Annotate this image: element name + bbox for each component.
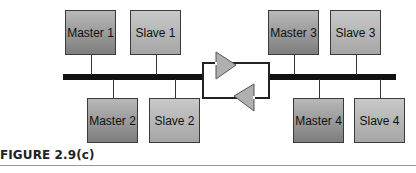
repeater-icon bbox=[198, 48, 274, 114]
node-label: Master 3 bbox=[270, 26, 317, 40]
node-slave2: Slave 2 bbox=[149, 98, 200, 143]
left-bus bbox=[63, 74, 203, 80]
node-label: Master 4 bbox=[295, 114, 342, 128]
node-slave3: Slave 3 bbox=[330, 10, 381, 55]
node-master1: Master 1 bbox=[65, 10, 116, 55]
node-master3: Master 3 bbox=[268, 10, 319, 55]
node-label: Master 1 bbox=[67, 26, 114, 40]
stem-slave1 bbox=[156, 55, 157, 75]
right-bus bbox=[270, 74, 396, 80]
node-label: Slave 2 bbox=[154, 114, 194, 128]
caption-rule bbox=[0, 165, 416, 166]
stem-master3 bbox=[294, 55, 295, 75]
node-label: Slave 1 bbox=[135, 26, 175, 40]
node-master4: Master 4 bbox=[293, 98, 344, 143]
node-label: Slave 4 bbox=[359, 114, 399, 128]
stem-slave4 bbox=[380, 79, 381, 99]
stem-master1 bbox=[91, 55, 92, 75]
stem-master4 bbox=[319, 79, 320, 99]
node-slave1: Slave 1 bbox=[130, 10, 181, 55]
node-label: Master 2 bbox=[89, 114, 136, 128]
node-slave4: Slave 4 bbox=[354, 98, 405, 143]
figure-caption: FIGURE 2.9(c) bbox=[0, 148, 95, 162]
node-label: Slave 3 bbox=[335, 26, 375, 40]
stem-slave2 bbox=[175, 79, 176, 99]
node-master2: Master 2 bbox=[87, 98, 138, 143]
stem-master2 bbox=[113, 79, 114, 99]
stem-slave3 bbox=[356, 55, 357, 75]
